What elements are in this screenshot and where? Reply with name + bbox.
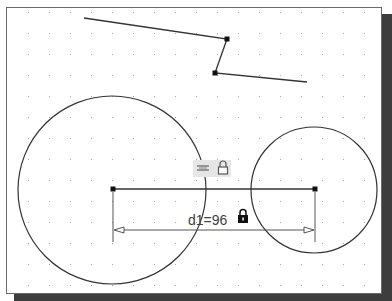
polyline-vertex[interactable]: [213, 71, 218, 76]
arrow-left-icon: [114, 227, 124, 233]
dimension-label[interactable]: d1=96: [188, 212, 227, 228]
polyline-vertex[interactable]: [225, 37, 230, 42]
circle-center-point-left[interactable]: [111, 187, 116, 192]
dimension-lock-icon[interactable]: [238, 210, 248, 224]
circle-center-point-right[interactable]: [313, 187, 318, 192]
sketch-polyline[interactable]: [84, 18, 307, 82]
sketch-canvas[interactable]: [0, 0, 392, 301]
arrow-right-icon: [304, 227, 314, 233]
